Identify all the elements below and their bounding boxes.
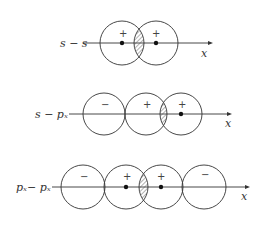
nucleus-dot — [179, 112, 183, 116]
lobe-sign: + — [178, 99, 186, 110]
axis-label: x — [241, 190, 248, 203]
diagram-s-px: s − pₓ x − + + — [35, 93, 232, 135]
lobe-sign: − — [201, 169, 209, 180]
diagram-s-s: s − s x + + — [60, 21, 213, 65]
lobe-sign: − — [101, 99, 109, 110]
lobe-sign: − — [80, 171, 88, 182]
nucleus-dot — [159, 185, 163, 189]
lobe-sign: + — [152, 28, 160, 39]
diagram-label: s − s — [60, 37, 88, 50]
axis-label: x — [201, 47, 208, 60]
diagram-label: pₓ− pₓ — [16, 181, 51, 194]
nucleus-dot — [120, 41, 124, 45]
nucleus-dot — [124, 185, 128, 189]
axis-arrow-icon — [227, 112, 232, 116]
orbital-overlap-figure: s − s x + + s − pₓ x − + + pₓ− pₓ x — [0, 0, 263, 228]
lobe-sign: + — [123, 171, 131, 182]
diagram-label: s − pₓ — [35, 108, 68, 121]
axis-label: x — [225, 117, 232, 130]
lobe-sign: + — [157, 171, 165, 182]
lobe-sign: + — [143, 99, 151, 110]
diagram-px-px: pₓ− pₓ x − + + − — [16, 165, 250, 209]
axis-arrow-icon — [245, 185, 250, 189]
lobe-sign: + — [119, 28, 127, 39]
axis-arrow-icon — [208, 41, 213, 45]
nucleus-dot — [154, 41, 158, 45]
